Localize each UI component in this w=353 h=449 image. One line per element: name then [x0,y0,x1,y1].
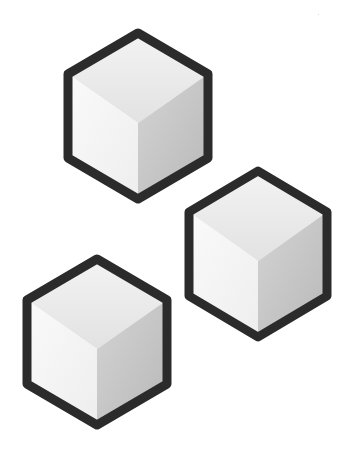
cube-bottom-left [27,259,167,425]
cube-right [189,171,327,337]
cube-illustration [0,0,353,449]
dust-speck [318,14,319,15]
cubes-layer [27,33,327,425]
cube-top [68,33,208,199]
